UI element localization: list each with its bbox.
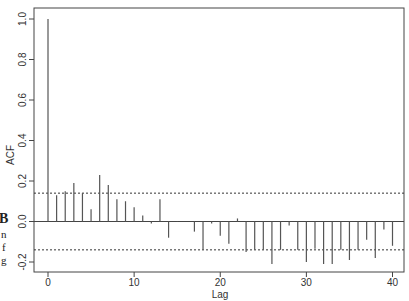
- acf-bars: [48, 19, 393, 264]
- x-tick-label: 30: [301, 277, 313, 288]
- margin-text-fragments: B n f g: [0, 211, 8, 266]
- x-tick-label: 20: [215, 277, 227, 288]
- margin-fragment: n: [1, 228, 7, 240]
- y-tick-label: 0.0: [17, 214, 28, 228]
- margin-fragment: f: [2, 241, 6, 253]
- y-tick-label: 0.4: [17, 133, 28, 147]
- acf-chart: B n f g -0.20.00.20.40.60.81.0 010203040…: [0, 0, 409, 301]
- y-tick-label: -0.2: [17, 253, 28, 271]
- y-tick-label: 0.8: [17, 52, 28, 66]
- x-axis-label: Lag: [212, 289, 229, 300]
- margin-fragment: B: [0, 211, 8, 226]
- margin-fragment: g: [1, 254, 7, 266]
- x-tick-label: 40: [387, 277, 399, 288]
- y-tick-label: 0.6: [17, 93, 28, 107]
- y-axis: -0.20.00.20.40.60.81.0: [17, 12, 34, 271]
- plot-frame: [34, 8, 404, 272]
- y-tick-label: 0.2: [17, 174, 28, 188]
- x-axis: 010203040: [45, 272, 398, 288]
- x-tick-label: 0: [45, 277, 51, 288]
- y-tick-label: 1.0: [17, 12, 28, 26]
- y-axis-label: ACF: [5, 145, 16, 165]
- x-tick-label: 10: [129, 277, 141, 288]
